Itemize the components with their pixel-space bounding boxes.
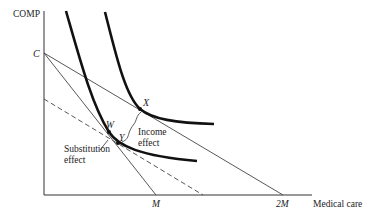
point-y-label: Y bbox=[119, 133, 126, 143]
point-w-dot bbox=[107, 130, 111, 134]
point-x-dot bbox=[138, 107, 142, 111]
point-x-label: X bbox=[142, 97, 150, 108]
point-w-label: W bbox=[106, 120, 115, 130]
x-tick-2m-label: 2M bbox=[276, 199, 290, 209]
income-substitution-diagram: COMP C X W Y Income effect Substitution … bbox=[0, 0, 379, 216]
substitution-effect-label-line1: Substitution bbox=[64, 144, 110, 154]
indifference-curve-lower bbox=[66, 11, 197, 161]
x-axis-label: Medical care bbox=[313, 199, 362, 209]
budget-line-c-to-2m bbox=[44, 53, 283, 195]
budget-line-c-to-m bbox=[44, 53, 156, 195]
y-axis-label: COMP bbox=[13, 9, 40, 19]
income-effect-label-line1: Income bbox=[138, 127, 167, 137]
income-effect-label-line2: effect bbox=[138, 138, 160, 148]
x-tick-m-label: M bbox=[151, 199, 161, 209]
substitution-effect-label-line2: effect bbox=[64, 155, 86, 165]
point-c-label: C bbox=[33, 48, 40, 59]
indifference-curve-upper bbox=[105, 12, 214, 124]
